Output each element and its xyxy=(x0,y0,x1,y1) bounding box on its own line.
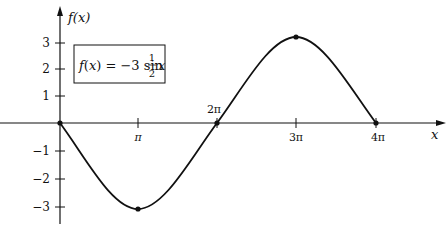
y-axis-arrow-icon xyxy=(57,6,63,16)
formula-legend-box: f(x) = −3 sin 1 2 x xyxy=(74,45,166,83)
x-axis-label: x xyxy=(431,127,439,142)
y-tick-label: 1 xyxy=(42,89,50,103)
y-axis-label: f(x) xyxy=(67,10,90,25)
x-tick-label: 3π xyxy=(289,131,303,144)
x-tick-label: 4π xyxy=(371,131,385,144)
x-tick-label: 2π xyxy=(207,103,221,116)
chart-canvas: 3 2 1 −1 −2 −3 π 2π 3π 4π x f(x) f(x) = … xyxy=(0,0,448,236)
y-tick-label: −2 xyxy=(32,172,50,186)
x-axis-arrow-icon xyxy=(436,120,446,126)
y-tick-label: 3 xyxy=(42,36,50,50)
y-tick-label: 2 xyxy=(42,62,50,76)
formula-variable: x xyxy=(158,58,166,73)
formula-fraction-numerator: 1 xyxy=(149,52,155,63)
x-tick-label: π xyxy=(133,131,142,144)
y-tick-label: −3 xyxy=(32,200,50,214)
y-tick-label: −1 xyxy=(32,144,50,158)
formula-fraction-denominator: 2 xyxy=(149,68,155,79)
